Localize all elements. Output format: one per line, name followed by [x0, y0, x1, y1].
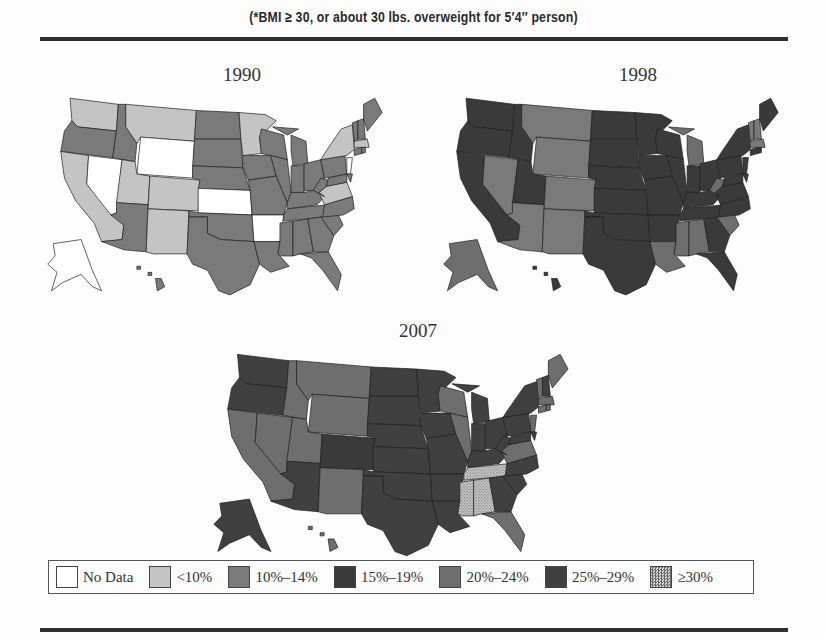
- state-ct: [539, 405, 547, 413]
- state-nj: [347, 158, 353, 174]
- state-ma: [354, 139, 369, 147]
- state-ct: [750, 147, 757, 155]
- state-wa: [238, 354, 289, 388]
- legend-item: <10%: [149, 566, 212, 588]
- state-nd: [590, 110, 636, 139]
- legend-swatch: [439, 566, 461, 588]
- top-divider: [40, 37, 788, 41]
- legend-swatch: [56, 566, 78, 588]
- chart-subtitle: (*BMI ≥ 30, or about 30 lbs. overweight …: [74, 8, 752, 25]
- state-hi: [533, 266, 561, 291]
- state-wy: [308, 394, 369, 436]
- state-sd: [589, 139, 639, 168]
- us-map-svg: [440, 90, 780, 300]
- state-ks: [594, 188, 648, 215]
- state-ri: [546, 405, 550, 411]
- state-hi: [137, 266, 165, 291]
- state-ms: [674, 221, 689, 256]
- state-de: [743, 174, 749, 182]
- state-in: [472, 424, 486, 451]
- state-ar: [252, 215, 284, 242]
- state-wi: [260, 129, 288, 160]
- legend-label: ≥30%: [677, 569, 713, 586]
- state-fl: [696, 252, 737, 291]
- bottom-divider: [40, 628, 788, 632]
- state-ny: [503, 382, 538, 418]
- legend-label: <10%: [176, 569, 212, 586]
- legend: No Data<10%10%–14%15%–19%20%–24%25%–29%≥…: [48, 560, 754, 594]
- legend-label: 10%–14%: [255, 569, 318, 586]
- state-nj: [531, 415, 537, 432]
- state-ny: [321, 125, 354, 160]
- state-sd: [367, 396, 420, 425]
- state-wi: [656, 129, 684, 160]
- state-nj: [743, 158, 749, 174]
- legend-label: 20%–24%: [466, 569, 529, 586]
- legend-item: ≥30%: [650, 566, 713, 588]
- state-ks: [198, 188, 252, 215]
- state-ms: [458, 480, 474, 516]
- state-fl: [481, 512, 524, 552]
- state-ks: [373, 447, 430, 474]
- legend-swatch: [545, 566, 567, 588]
- state-ma: [539, 396, 555, 404]
- state-ak: [48, 240, 102, 291]
- state-ny: [717, 125, 750, 160]
- state-wa: [466, 98, 514, 131]
- state-ri: [758, 147, 762, 153]
- state-wa: [70, 98, 118, 131]
- state-in: [291, 166, 304, 193]
- state-me: [364, 98, 383, 131]
- state-co: [544, 176, 596, 211]
- state-nm: [146, 209, 189, 254]
- state-de: [531, 432, 537, 440]
- map-title: 1998: [588, 64, 688, 86]
- state-hi: [308, 526, 338, 551]
- us-map-svg: [210, 346, 570, 561]
- state-ct: [354, 147, 361, 155]
- legend-item: 15%–19%: [334, 566, 424, 588]
- legend-label: 25%–29%: [572, 569, 635, 586]
- state-ne: [589, 166, 647, 191]
- state-wy: [137, 137, 195, 178]
- state-fl: [300, 252, 341, 291]
- us-map-svg: [44, 90, 384, 300]
- state-sd: [193, 139, 243, 168]
- legend-label: 15%–19%: [361, 569, 424, 586]
- state-ak: [214, 499, 271, 551]
- legend-item: 20%–24%: [439, 566, 529, 588]
- state-nm: [542, 209, 585, 254]
- state-me: [548, 354, 568, 388]
- legend-label: No Data: [83, 569, 133, 586]
- state-de: [347, 174, 353, 182]
- state-wy: [533, 137, 591, 178]
- state-nd: [369, 367, 418, 396]
- legend-item: No Data: [56, 566, 133, 588]
- map-title: 1990: [192, 64, 292, 86]
- legend-swatch: [228, 566, 250, 588]
- legend-item: 25%–29%: [545, 566, 635, 588]
- state-ne: [193, 166, 251, 191]
- state-me: [760, 98, 779, 131]
- state-ar: [430, 474, 463, 501]
- state-ma: [750, 139, 765, 147]
- state-ne: [367, 424, 428, 449]
- map-title: 2007: [368, 320, 468, 342]
- map-1990: 1990: [44, 76, 384, 286]
- state-in: [687, 166, 700, 193]
- state-mt: [522, 104, 593, 143]
- state-nd: [194, 110, 240, 139]
- state-co: [148, 176, 200, 211]
- state-ar: [648, 215, 680, 242]
- state-mt: [126, 104, 197, 143]
- state-ri: [362, 147, 366, 153]
- state-ak: [444, 240, 498, 291]
- map-2007: 2007: [210, 332, 570, 547]
- state-nm: [318, 468, 363, 514]
- legend-swatch: [334, 566, 356, 588]
- state-wi: [438, 386, 468, 417]
- state-mt: [297, 361, 372, 401]
- legend-swatch: [149, 566, 171, 588]
- map-1998: 1998: [440, 76, 780, 286]
- legend-swatch: [650, 566, 672, 588]
